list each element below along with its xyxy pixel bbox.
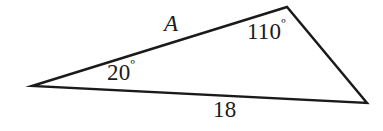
triangle-figure: A 110º 20º 18 bbox=[0, 0, 383, 131]
angle-label-left: 20º bbox=[107, 61, 135, 84]
triangle-shape bbox=[0, 0, 383, 131]
degree-symbol-icon: º bbox=[130, 58, 135, 73]
degree-symbol-icon: º bbox=[281, 17, 286, 32]
triangle-outline bbox=[32, 7, 367, 103]
side-label-a: A bbox=[164, 12, 178, 35]
angle-apex-value: 110 bbox=[247, 19, 281, 44]
angle-left-value: 20 bbox=[107, 60, 130, 85]
side-label-base: 18 bbox=[213, 98, 236, 121]
angle-label-apex: 110º bbox=[247, 20, 286, 43]
